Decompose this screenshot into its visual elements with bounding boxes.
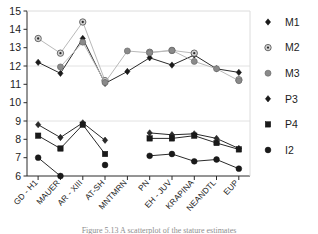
series-line-M1 [38,39,239,84]
datapoint-M2-1-center [59,52,61,54]
legend-label: M2 [285,41,300,53]
series-line-M2 [38,22,105,81]
series-line-P3 [38,123,105,141]
series-M3 [57,39,241,85]
legend-item-I2[interactable]: I2 [265,144,294,156]
chart-figure: 1514131211109876GD - H1MAUERAR - XIIIAT-… [0,0,318,234]
legend-label: I2 [285,144,294,156]
legend-item-P4[interactable]: P4 [265,118,298,130]
datapoint-P4-1 [58,146,63,151]
datapoint-M3-6 [169,47,175,53]
datapoint-I2-0 [35,155,41,161]
datapoint-M3-9 [236,78,242,84]
datapoint-M3-7 [191,58,197,64]
datapoint-P4-5 [147,136,152,141]
y-tick-label: 11 [10,78,21,90]
datapoint-M2-7-center [193,52,195,54]
datapoint-I2-3 [102,162,108,168]
datapoint-P3-1 [58,134,63,140]
datapoint-P4-9 [236,147,241,152]
datapoint-M1-9 [236,69,241,75]
datapoint-I2-5 [147,153,153,159]
legend-marker-M3 [265,70,271,76]
datapoint-I2-7 [191,158,197,164]
y-tick-label: 12 [9,60,21,72]
y-tick-label: 13 [9,41,21,53]
legend-marker-P4 [265,122,270,127]
y-tick-label: 8 [15,133,21,145]
datapoint-I2-6 [169,151,175,157]
y-tick-label: 15 [9,5,21,17]
datapoint-M1-0 [36,59,41,65]
legend-item-M1[interactable]: M1 [265,16,299,28]
legend-marker-I2 [265,147,271,153]
y-tick-label: 14 [9,23,21,35]
x-tick-label: AR - XIII [56,178,84,207]
datapoint-M1-4 [125,68,130,74]
datapoint-M2-0-center [37,37,39,39]
series-P3 [36,120,242,152]
series-P4 [35,122,241,157]
y-tick-label: 6 [15,170,21,182]
y-tick-label: 9 [15,115,21,127]
datapoint-P3-3 [102,137,107,143]
datapoint-M3-4 [124,48,130,54]
datapoint-P4-8 [214,140,219,145]
datapoint-M3-3 [102,80,108,86]
datapoint-P4-2 [80,122,85,127]
legend-marker-P3 [265,96,270,102]
datapoint-M3-1 [57,64,63,70]
x-tick-label: EUP [222,178,241,197]
y-tick-label: 7 [15,151,21,163]
datapoint-P3-5 [147,130,152,136]
datapoint-I2-1 [58,173,64,179]
datapoint-P4-0 [35,133,40,138]
datapoint-M3-2 [80,39,86,45]
figure-caption: Figure 5.13 A scatterplot of the stature… [0,226,318,234]
datapoint-P4-7 [192,133,197,138]
datapoint-M3-8 [214,66,220,72]
datapoint-M2-2-center [82,21,84,23]
x-tick-label: GD - H1 [12,178,40,207]
y-tick-label: 10 [9,96,21,108]
legend-item-M3[interactable]: M3 [265,67,300,79]
legend-label: M3 [285,67,300,79]
legend-marker-M1 [265,19,270,25]
series-line-P4 [38,125,105,154]
x-tick-label: PN [137,178,151,193]
legend-label: P4 [285,118,298,130]
datapoint-P4-6 [169,136,174,141]
legend-item-P3[interactable]: P3 [265,93,298,105]
datapoint-M3-5 [147,50,153,56]
series-I2 [35,151,242,179]
legend-item-M2[interactable]: M2 [265,41,300,53]
datapoint-I2-9 [236,166,242,172]
datapoint-P3-0 [36,121,41,127]
legend-label: P3 [285,93,298,105]
series-M2 [35,19,242,84]
datapoint-M1-6 [169,62,174,68]
series-line-I2 [38,158,60,176]
legend-label: M1 [285,16,300,28]
datapoint-I2-8 [214,157,220,163]
legend-marker-M2-center [267,46,269,48]
line-chart: 1514131211109876GD - H1MAUERAR - XIIIAT-… [0,0,318,234]
datapoint-P4-3 [102,151,107,156]
